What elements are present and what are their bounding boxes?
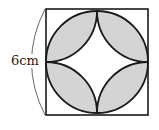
side-length-label: 6cm <box>11 54 39 68</box>
